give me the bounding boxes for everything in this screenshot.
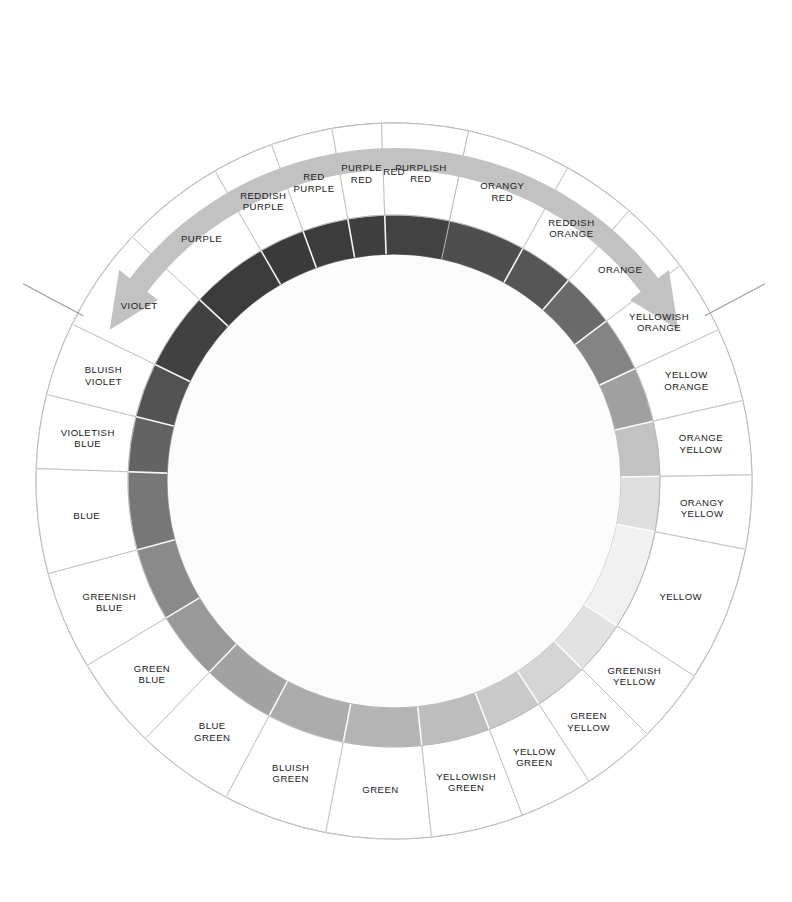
color-band-segment (343, 704, 422, 747)
color-band-segment (385, 215, 450, 259)
color-band-segment (615, 421, 660, 477)
right-guide-line (705, 284, 765, 316)
color-wheel-figure: REDORANGY REDREDDISH ORANGEORANGEYELLOWI… (0, 0, 792, 902)
color-wheel-svg (0, 0, 792, 902)
left-guide-line (23, 284, 83, 316)
label-cell (326, 742, 432, 839)
color-band-segment (617, 476, 660, 531)
